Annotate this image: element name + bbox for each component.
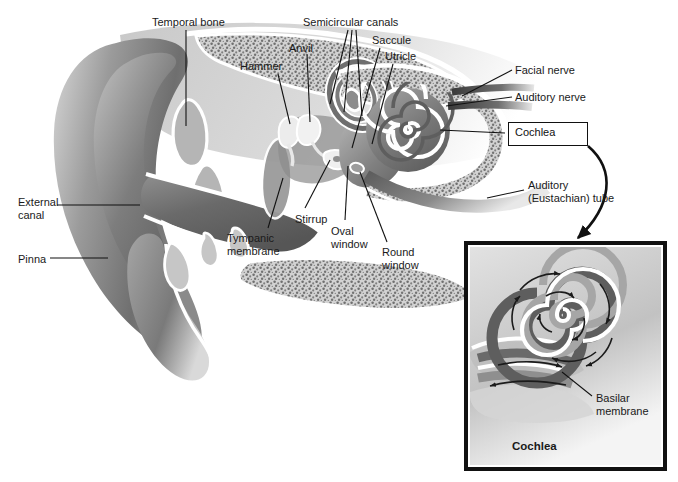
label-semicircular-canals: Semicircular canals <box>303 16 398 29</box>
inset-caption-cochlea: Cochlea <box>512 440 557 453</box>
label-tympanic-membrane: Tympanic membrane <box>227 232 280 258</box>
label-external-canal: External canal <box>18 196 58 222</box>
label-oval-window: Oval window <box>331 225 368 251</box>
label-saccule: Saccule <box>372 34 411 47</box>
label-round-window: Round window <box>382 246 419 272</box>
label-stirrup: Stirrup <box>295 213 327 226</box>
ear-anatomy-figure: Temporal bone Semicircular canals Anvil … <box>0 0 678 482</box>
label-auditory-nerve: Auditory nerve <box>515 91 586 104</box>
temporal-bone-lower <box>239 259 476 310</box>
label-utricle: Utricle <box>385 50 416 63</box>
auditory-nerve-shape <box>448 105 532 107</box>
label-eustachian-tube: Auditory (Eustachian) tube <box>528 179 614 205</box>
label-hammer: Hammer <box>240 60 282 73</box>
anvil-incus <box>297 115 321 145</box>
cochlea-callout-box[interactable]: Cochlea <box>508 122 588 146</box>
label-pinna: Pinna <box>18 253 46 266</box>
canal-cartilage-1 <box>165 243 190 290</box>
label-temporal-bone: Temporal bone <box>152 16 225 29</box>
label-anvil: Anvil <box>289 42 313 55</box>
label-facial-nerve: Facial nerve <box>515 64 575 77</box>
cartilage-island-1 <box>173 100 207 167</box>
label-basilar-membrane: Basilar membrane <box>596 392 649 418</box>
cochlea-inset <box>466 243 665 469</box>
